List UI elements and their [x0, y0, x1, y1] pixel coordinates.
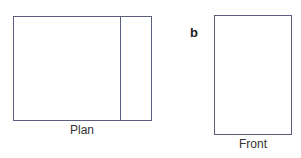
- panel-label: b: [190, 25, 198, 40]
- plan-outline: [14, 17, 152, 121]
- front-outline: [215, 16, 292, 135]
- plan-label: Plan: [70, 123, 94, 137]
- diagram-canvas: Plan b Front: [0, 0, 301, 158]
- front-label: Front: [239, 137, 268, 151]
